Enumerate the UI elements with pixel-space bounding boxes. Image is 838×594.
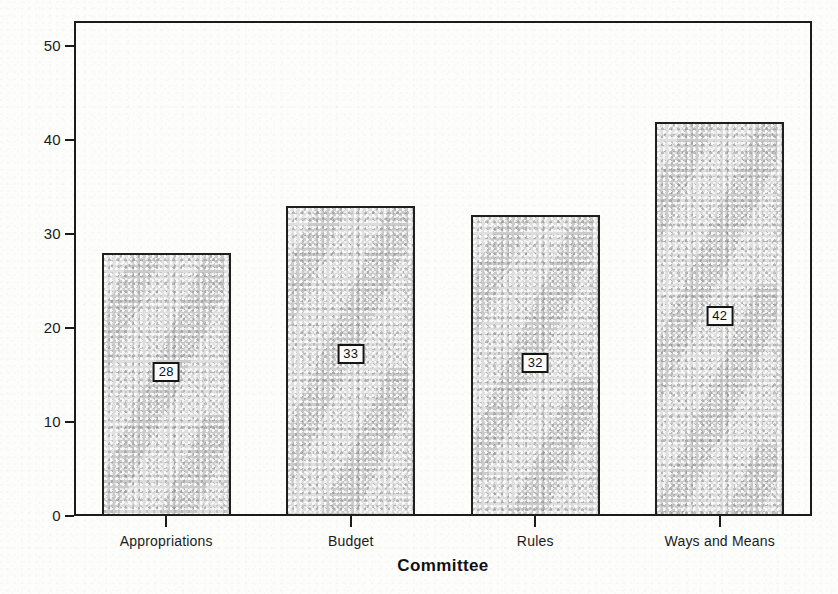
bar-value-label: 42 [706, 306, 733, 326]
y-axis-title-container: Percent Lobby [0, 0, 34, 594]
bar [102, 253, 231, 516]
y-axis-title: Percent Lobby [0, 0, 32, 34]
x-axis-tick-mark [534, 516, 536, 527]
x-axis-tick-mark [165, 516, 167, 527]
y-axis-tick-mark [65, 45, 74, 47]
y-axis-tick-mark [65, 515, 74, 517]
y-axis-tick-mark [65, 421, 74, 423]
bar-chart-figure: Percent Lobby 01020304050 28333242 Appro… [0, 0, 838, 594]
x-axis-tick-mark [719, 516, 721, 527]
x-axis-tick-label: Budget [328, 533, 374, 549]
y-axis-tick-label: 10 [44, 412, 61, 432]
x-axis-tick-label: Ways and Means [665, 533, 775, 549]
bar-value-label: 28 [153, 362, 180, 382]
x-axis-tick-label: Appropriations [120, 533, 213, 549]
bar-value-label: 32 [522, 353, 549, 373]
y-axis-tick-mark [65, 233, 74, 235]
x-axis-tick-mark [350, 516, 352, 527]
x-axis-title: Committee [74, 556, 812, 576]
y-axis-tick-label: 40 [44, 130, 61, 150]
y-axis-tick-mark [65, 139, 74, 141]
x-axis-tick-label: Rules [517, 533, 554, 549]
y-axis-tick-label: 50 [44, 36, 61, 56]
y-axis-tick-label: 30 [44, 224, 61, 244]
y-axis-tick-label: 20 [44, 318, 61, 338]
y-axis-tick-mark [65, 327, 74, 329]
y-axis-tick-label: 0 [52, 506, 61, 526]
bar-value-label: 33 [337, 344, 364, 364]
